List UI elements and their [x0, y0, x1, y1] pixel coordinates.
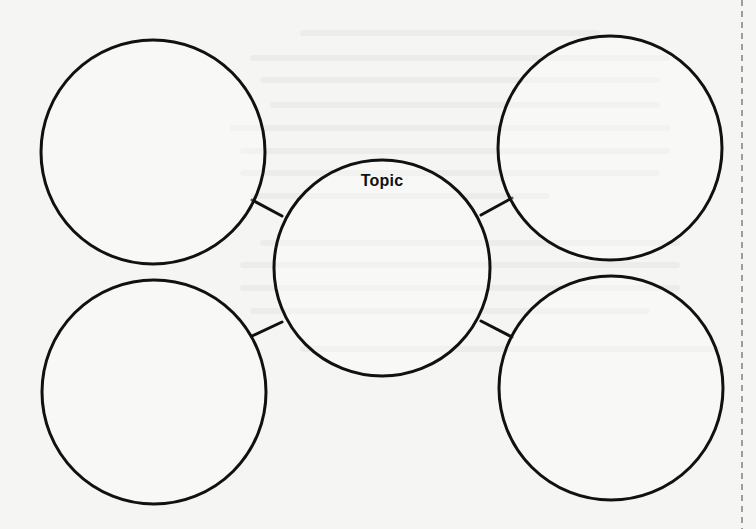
topic-label: Topic	[332, 172, 432, 190]
subtopic-writing-area-bottom-left[interactable]	[52, 290, 256, 494]
connector-bottom-right	[481, 321, 512, 337]
subtopic-writing-area-top-left[interactable]	[51, 50, 255, 254]
subtopic-writing-area-bottom-right[interactable]	[509, 286, 713, 490]
connector-top-left	[252, 200, 282, 216]
worksheet-page: Topic	[0, 0, 756, 529]
topic-circle[interactable]	[274, 160, 490, 376]
connector-bottom-left	[252, 322, 282, 336]
subtopic-writing-area-top-right[interactable]	[508, 46, 712, 250]
connector-top-right	[481, 198, 512, 215]
